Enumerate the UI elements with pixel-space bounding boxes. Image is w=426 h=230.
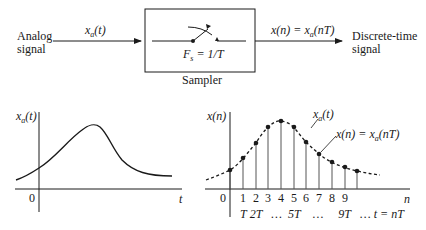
discrete-ylabel: x(n) xyxy=(207,110,226,123)
analog-origin: 0 xyxy=(29,192,35,205)
input-label-line2: signal xyxy=(17,43,52,56)
n-tick-4: 4 xyxy=(278,192,284,205)
n-tick-9: 9 xyxy=(342,192,348,205)
analog-xlabel: t xyxy=(179,193,182,206)
n-tick-3: 3 xyxy=(265,192,271,205)
n-tick-1: 1 xyxy=(240,192,246,205)
n-tick-2: 2 xyxy=(253,192,259,205)
time-tick-labels: T 2T … 5T … 9T … t = nT xyxy=(240,208,404,221)
n-tick-8: 8 xyxy=(329,192,335,205)
output-label: Discrete-time signal xyxy=(352,30,417,56)
n-tick-6: 6 xyxy=(303,192,309,205)
switch-rotation-arrow xyxy=(188,27,212,35)
output-label-line2: signal xyxy=(352,43,417,56)
samples-label: x(n) = xa(nT) xyxy=(336,128,399,145)
discrete-xlabel: n xyxy=(404,193,410,206)
n-tick-5: 5 xyxy=(291,192,297,205)
input-signal-label: xa(t) xyxy=(85,24,106,41)
sampling-rate-label: Fs = 1/T xyxy=(183,48,224,65)
input-label: Analog signal xyxy=(17,30,52,56)
sampler-label: Sampler xyxy=(182,74,222,87)
n-tick-0: 0 xyxy=(220,192,226,205)
curve-label: xa(t) xyxy=(313,108,334,125)
output-signal-label: x(n) = xa(nT) xyxy=(271,24,334,41)
n-tick-7: 7 xyxy=(316,192,322,205)
analog-ylabel: xa(t) xyxy=(16,110,37,127)
